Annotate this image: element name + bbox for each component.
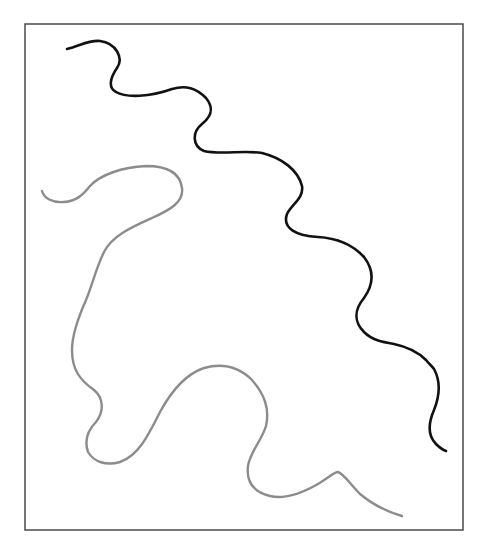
curves-drawing: [0, 0, 487, 557]
figure-canvas: [0, 0, 487, 557]
black-wavy-curve: [67, 41, 446, 451]
gray-wavy-curve: [42, 166, 402, 516]
